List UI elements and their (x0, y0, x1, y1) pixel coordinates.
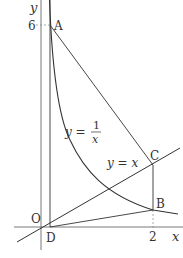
point-D-label: D (46, 231, 56, 245)
y-axis-label: y (29, 0, 38, 15)
point-A-label: A (53, 19, 63, 33)
y-tick-6: 6 (28, 19, 36, 33)
line-label: y = x (106, 156, 138, 170)
segment-AC (50, 25, 153, 165)
coordinate-diagram: y 6 A y = 1 x y = x C B O D 2 x (0, 0, 183, 258)
hyperbola-label-den: x (92, 133, 99, 146)
origin-label: O (31, 212, 41, 226)
hyperbola-curve (50, 0, 179, 214)
point-C-label: C (150, 149, 159, 163)
x-tick-2: 2 (149, 230, 157, 244)
point-B-label: B (156, 197, 165, 211)
segment-DB (50, 210, 153, 227)
hyperbola-label-num: 1 (93, 119, 100, 132)
hyperbola-label-lhs: y = (64, 125, 86, 139)
x-axis-label: x (172, 229, 180, 244)
